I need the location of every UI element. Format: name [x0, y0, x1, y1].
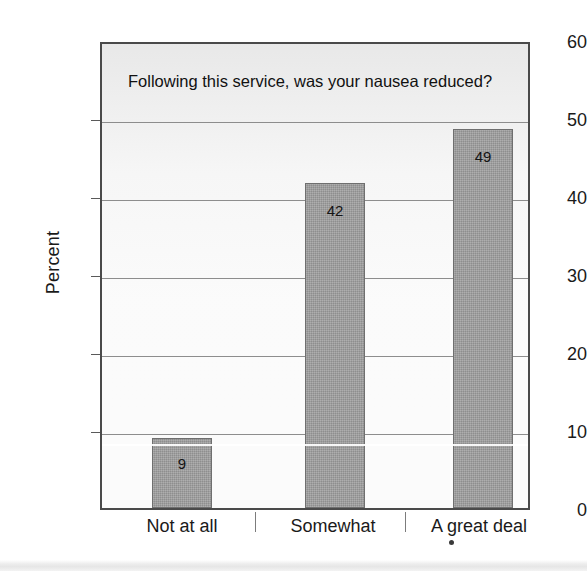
bar-somewhat[interactable]: 42 [305, 183, 365, 508]
y-tick-label-0: 0 [547, 500, 587, 521]
bar-chart-figure: Percent 60 50 40 30 20 10 0 Following th… [0, 0, 587, 571]
y-tick-mark-20 [91, 354, 100, 355]
y-tick-label-40: 40 [547, 188, 587, 209]
gridline-50 [102, 122, 528, 123]
y-tick-label-10: 10 [547, 422, 587, 443]
y-axis-title: Percent [43, 203, 64, 323]
y-tick-mark-50 [91, 120, 100, 121]
chart-title: Following this service, was your nausea … [128, 72, 492, 91]
x-tick-mark-1 [255, 512, 256, 532]
y-tick-mark-30 [91, 276, 100, 277]
bar-value-not-at-all: 9 [153, 455, 211, 472]
scan-speck [449, 540, 454, 545]
y-tick-mark-40 [91, 198, 100, 199]
x-tick-label-a-great-deal: A great deal [431, 516, 527, 537]
y-tick-label-30: 30 [547, 266, 587, 287]
plot-area: Following this service, was your nausea … [100, 42, 530, 510]
scan-edge-band [0, 560, 587, 571]
bar-value-a-great-deal: 49 [454, 148, 512, 165]
x-tick-label-not-at-all: Not at all [146, 516, 217, 537]
bar-not-at-all[interactable]: 9 [152, 438, 212, 508]
bar-value-somewhat: 42 [306, 202, 364, 219]
x-tick-label-somewhat: Somewhat [290, 516, 375, 537]
x-tick-mark-2 [405, 512, 406, 532]
bar-a-great-deal[interactable]: 49 [453, 129, 513, 508]
y-tick-label-60: 60 [547, 32, 587, 53]
y-tick-label-20: 20 [547, 344, 587, 365]
y-tick-mark-10 [91, 432, 100, 433]
y-tick-label-50: 50 [547, 110, 587, 131]
